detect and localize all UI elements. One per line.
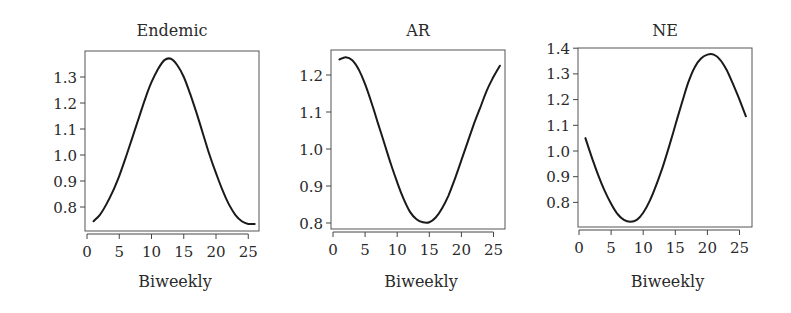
y-tick-label: 1.1 bbox=[546, 117, 570, 135]
data-line bbox=[585, 54, 746, 222]
y-tick-label: 0.8 bbox=[546, 194, 570, 212]
x-tick-label: 25 bbox=[484, 241, 503, 259]
y-tick-label: 1.3 bbox=[546, 65, 570, 83]
x-axis-label: Biweekly bbox=[631, 272, 704, 291]
x-tick-label: 5 bbox=[360, 241, 370, 259]
y-tick-label: 0.8 bbox=[53, 199, 77, 217]
plot-frame bbox=[85, 51, 259, 231]
x-tick-label: 0 bbox=[82, 243, 92, 261]
x-axis: 0510152025 bbox=[574, 230, 749, 257]
x-tick-label: 10 bbox=[142, 243, 161, 261]
y-tick-label: 0.9 bbox=[546, 168, 570, 186]
x-tick-label: 25 bbox=[239, 243, 258, 261]
y-axis: 0.80.91.01.11.21.3 bbox=[53, 69, 85, 217]
x-axis-label: Biweekly bbox=[138, 272, 211, 291]
chart-title: AR bbox=[405, 21, 431, 40]
y-tick-label: 1.2 bbox=[299, 67, 323, 85]
y-tick-label: 1.1 bbox=[299, 104, 323, 122]
y-tick-label: 1.0 bbox=[299, 141, 323, 159]
plot-frame bbox=[578, 48, 752, 227]
x-axis: 0510152025 bbox=[328, 232, 503, 259]
figure: Endemic 0.80.91.01.11.21.3 0510152025 Bi… bbox=[0, 0, 791, 313]
data-line bbox=[94, 58, 255, 224]
y-tick-label: 1.4 bbox=[546, 40, 570, 58]
panel-endemic: Endemic 0.80.91.01.11.21.3 0510152025 Bi… bbox=[53, 21, 259, 291]
x-tick-label: 0 bbox=[328, 241, 338, 259]
x-tick-label: 15 bbox=[666, 239, 685, 257]
y-tick-label: 1.2 bbox=[546, 91, 570, 109]
y-tick-label: 1.3 bbox=[53, 69, 77, 87]
plot-frame bbox=[331, 50, 505, 229]
x-tick-label: 15 bbox=[420, 241, 439, 259]
y-tick-label: 1.2 bbox=[53, 95, 77, 113]
x-tick-label: 20 bbox=[698, 239, 717, 257]
y-axis: 0.80.91.01.11.2 bbox=[299, 67, 331, 233]
x-tick-label: 10 bbox=[388, 241, 407, 259]
x-axis-label: Biweekly bbox=[384, 272, 457, 291]
y-tick-label: 0.9 bbox=[299, 178, 323, 196]
y-axis: 0.80.91.01.11.21.31.4 bbox=[546, 40, 578, 212]
chart-title: NE bbox=[652, 21, 678, 40]
x-tick-label: 0 bbox=[574, 239, 584, 257]
x-tick-label: 25 bbox=[730, 239, 749, 257]
x-axis: 0510152025 bbox=[82, 234, 258, 261]
x-tick-label: 15 bbox=[174, 243, 193, 261]
panel-ar: AR 0.80.91.01.11.2 0510152025 Biweekly bbox=[299, 21, 505, 291]
y-tick-label: 0.9 bbox=[53, 173, 77, 191]
x-tick-label: 10 bbox=[634, 239, 653, 257]
data-line bbox=[339, 57, 500, 223]
panel-ne: NE 0.80.91.01.11.21.31.4 0510152025 Biwe… bbox=[546, 21, 752, 291]
x-tick-label: 20 bbox=[452, 241, 471, 259]
y-tick-label: 0.8 bbox=[299, 215, 323, 233]
y-tick-label: 1.0 bbox=[546, 143, 570, 161]
x-tick-label: 5 bbox=[114, 243, 124, 261]
x-tick-label: 5 bbox=[606, 239, 616, 257]
chart-title: Endemic bbox=[137, 21, 208, 40]
y-tick-label: 1.0 bbox=[53, 147, 77, 165]
y-tick-label: 1.1 bbox=[53, 121, 77, 139]
x-tick-label: 20 bbox=[206, 243, 225, 261]
